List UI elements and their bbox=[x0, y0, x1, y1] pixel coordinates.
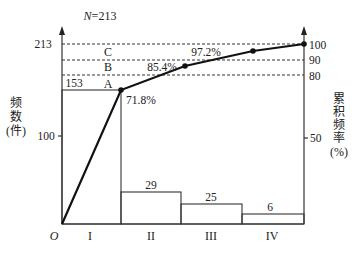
right-tick-80: 80 bbox=[309, 70, 321, 82]
left-tick-100: 100 bbox=[37, 130, 55, 142]
bar-label-ii: 29 bbox=[145, 179, 157, 191]
cumulative-line bbox=[62, 44, 304, 224]
bar-iv bbox=[242, 214, 304, 224]
cumulative-point-2 bbox=[182, 63, 188, 69]
category-label-iv: IV bbox=[266, 229, 279, 243]
bar-iii bbox=[181, 204, 242, 224]
cumulative-label-97-2: 97.2% bbox=[191, 46, 221, 58]
left-tick-213: 213 bbox=[34, 38, 52, 50]
chart-title: N=213 bbox=[83, 9, 117, 23]
zone-label-c: C bbox=[104, 45, 112, 59]
cumulative-point-1 bbox=[118, 87, 124, 93]
right-axis-title-2: 积 bbox=[333, 105, 345, 119]
left-axis-title-3: (件) bbox=[6, 124, 26, 138]
right-axis-title-5: (%) bbox=[330, 145, 348, 159]
right-tick-90: 90 bbox=[309, 54, 321, 66]
right-tick-100: 100 bbox=[309, 39, 327, 51]
bar-ii bbox=[121, 192, 181, 224]
bar-label-iv: 6 bbox=[267, 201, 273, 213]
right-axis-title-1: 累 bbox=[333, 92, 345, 106]
bar-label-i: 153 bbox=[65, 77, 83, 89]
pareto-chart: N=213 C B A 213 100 频 数 (件) 100 90 80 50… bbox=[0, 0, 357, 258]
zone-label-b: B bbox=[104, 60, 112, 74]
cumulative-point-4 bbox=[301, 41, 307, 47]
cumulative-label-85-4: 85.4% bbox=[147, 61, 177, 73]
category-label-iii: III bbox=[205, 229, 217, 243]
bar-label-iii: 25 bbox=[205, 191, 217, 203]
origin-label: O bbox=[50, 229, 59, 243]
left-axis-title-1: 频 bbox=[10, 96, 22, 110]
left-axis-title-2: 数 bbox=[10, 109, 22, 124]
right-axis-title-3: 频 bbox=[333, 118, 345, 132]
right-axis-title-4: 率 bbox=[333, 130, 345, 145]
zone-label-a: A bbox=[104, 77, 113, 91]
right-axis-arrow-icon bbox=[301, 26, 307, 35]
cumulative-label-71-8: 71.8% bbox=[126, 94, 156, 106]
category-label-i: I bbox=[88, 229, 92, 243]
cumulative-point-3 bbox=[250, 48, 256, 54]
category-label-ii: II bbox=[147, 229, 155, 243]
left-axis-arrow-icon bbox=[59, 26, 65, 35]
right-tick-50: 50 bbox=[310, 132, 322, 144]
